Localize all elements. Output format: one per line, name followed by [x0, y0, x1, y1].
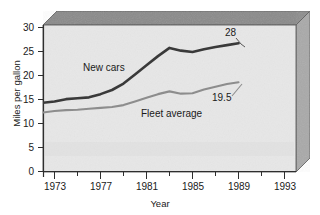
plot-texture-band	[45, 142, 294, 156]
x-tick-label: 1985	[173, 181, 213, 192]
value-label-new-cars: 28	[225, 27, 236, 38]
y-tick-label: 30	[12, 22, 34, 33]
x-tick-label: 1989	[219, 181, 259, 192]
x-tick-label: 1973	[35, 181, 75, 192]
x-tick-marks	[55, 172, 285, 179]
y-tick-label: 0	[12, 166, 34, 177]
chart-figure: 0 5 10 15 20 25 30 1973 1977 1981 1985 1…	[0, 0, 320, 215]
y-axis-title: Miles per gallon	[11, 42, 22, 146]
series-label-fleet-average: Fleet average	[141, 108, 202, 119]
x-tick-label: 1977	[81, 181, 121, 192]
y-tick-marks	[38, 28, 43, 172]
x-axis-title: Year	[0, 198, 320, 209]
x-tick-label: 1981	[127, 181, 167, 192]
value-label-fleet-average: 19.5	[212, 92, 231, 103]
frame-top-face	[43, 11, 310, 25]
series-label-new-cars: New cars	[83, 62, 125, 73]
x-tick-label: 1993	[265, 181, 305, 192]
frame-right-face	[296, 11, 310, 172]
